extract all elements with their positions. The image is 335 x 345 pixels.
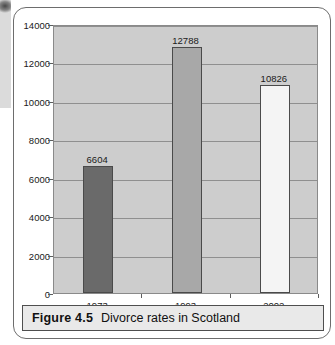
y-axis-tick-label: 14000 <box>0 20 50 31</box>
y-axis-tick-mark <box>48 217 53 218</box>
figure-caption-text: Divorce rates in Scotland <box>101 311 240 325</box>
y-axis-tick-mark <box>48 256 53 257</box>
x-axis-tick-mark <box>230 294 231 298</box>
y-axis-tick-label: 4000 <box>0 212 50 223</box>
scan-edge-artifact <box>0 0 11 108</box>
bar-value-label: 6604 <box>87 154 108 165</box>
bar-value-label: 12788 <box>172 35 198 46</box>
x-axis-tick-mark <box>318 294 319 298</box>
bar-chart: 0200040006000800010000120001400066041973… <box>14 8 332 306</box>
y-axis-tick-label: 12000 <box>0 58 50 69</box>
y-axis-tick-label: 0 <box>0 289 50 300</box>
y-axis-tick-label: 2000 <box>0 250 50 261</box>
y-axis-tick-mark <box>48 294 53 295</box>
bar-1993 <box>172 47 202 293</box>
figure-card: 0200040006000800010000120001400066041973… <box>13 7 331 339</box>
y-axis-tick-label: 10000 <box>0 96 50 107</box>
bar-1973 <box>83 166 113 293</box>
y-axis-tick-mark <box>48 63 53 64</box>
gridline <box>54 26 317 27</box>
figure-number-label: Figure 4.5 <box>32 311 93 325</box>
figure-caption-bar: Figure 4.5 Divorce rates in Scotland <box>22 305 324 331</box>
y-axis-tick-mark <box>48 179 53 180</box>
y-axis-tick-mark <box>48 102 53 103</box>
bar-value-label: 10826 <box>261 73 287 84</box>
bar-2002 <box>260 85 290 293</box>
y-axis-tick-label: 6000 <box>0 173 50 184</box>
y-axis-tick-mark <box>48 25 53 26</box>
x-axis-tick-mark <box>141 294 142 298</box>
y-axis-tick-label: 8000 <box>0 135 50 146</box>
y-axis-tick-mark <box>48 140 53 141</box>
